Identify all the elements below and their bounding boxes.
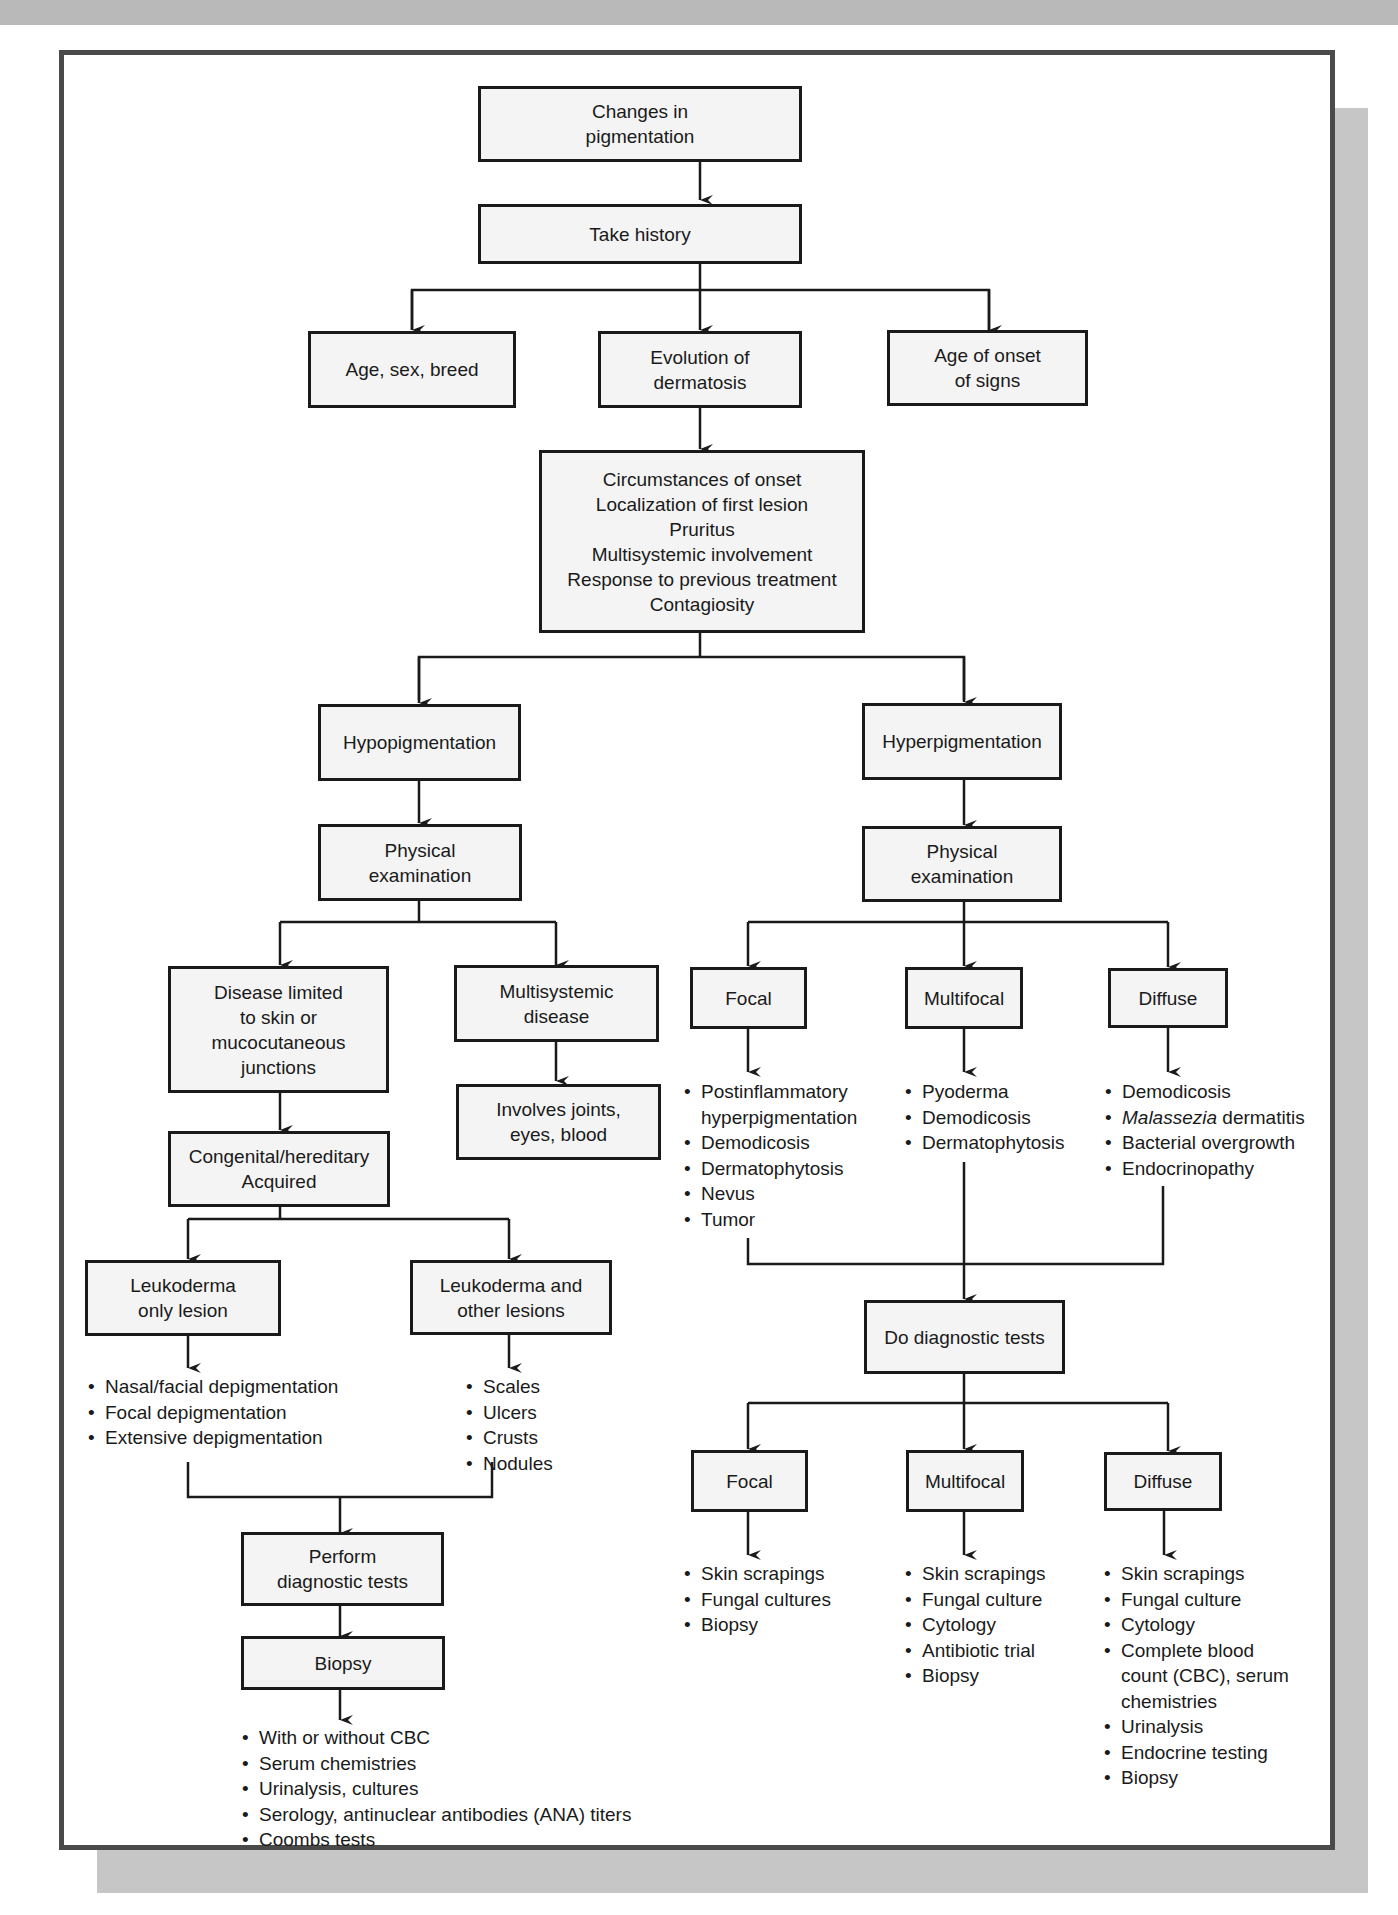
node-label: Focal: [726, 1469, 772, 1494]
list-item: Crusts: [466, 1425, 553, 1451]
list-item: Biopsy: [905, 1663, 1046, 1689]
list-item: Complete blood count (CBC), serum chemis…: [1104, 1638, 1289, 1715]
list-test-diffuse: Skin scrapings Fungal culture Cytology C…: [1104, 1561, 1289, 1791]
node-label: Congenital/hereditary Acquired: [189, 1144, 370, 1194]
list-biopsy: With or without CBC Serum chemistries Ur…: [242, 1725, 631, 1853]
node-label: Evolution of dermatosis: [650, 345, 749, 395]
list-item: Skin scrapings: [905, 1561, 1046, 1587]
node-biopsy: Biopsy: [241, 1636, 445, 1690]
node-label: Hypopigmentation: [343, 730, 496, 755]
list-hyper-focal: Postinflammatory hyperpigmentation Demod…: [684, 1079, 857, 1232]
node-congenital-acquired: Congenital/hereditary Acquired: [168, 1131, 390, 1207]
list-item: Demodicosis: [684, 1130, 857, 1156]
node-label: Disease limited to skin or mucocutaneous…: [211, 980, 345, 1080]
node-label: Hyperpigmentation: [882, 729, 1041, 754]
list-item: Fungal culture: [1104, 1587, 1289, 1613]
node-label: Leukoderma only lesion: [130, 1273, 236, 1323]
node-history-details: Circumstances of onset Localization of f…: [539, 450, 865, 633]
list-item: Tumor: [684, 1207, 857, 1233]
list-item: Urinalysis, cultures: [242, 1776, 631, 1802]
list-item: Nevus: [684, 1181, 857, 1207]
list-item: Focal depigmentation: [88, 1400, 338, 1426]
list-item: Cytology: [905, 1612, 1046, 1638]
list-hyper-diffuse: Demodicosis Malassezia dermatitis Bacter…: [1105, 1079, 1305, 1181]
list-item: Nasal/facial depigmentation: [88, 1374, 338, 1400]
node-label: Diffuse: [1134, 1469, 1193, 1494]
list-item: Bacterial overgrowth: [1105, 1130, 1305, 1156]
list-item: Skin scrapings: [684, 1561, 831, 1587]
node-evolution-of-dermatosis: Evolution of dermatosis: [598, 331, 802, 408]
list-item: Endocrinopathy: [1105, 1156, 1305, 1182]
node-age-sex-breed: Age, sex, breed: [308, 331, 516, 408]
node-take-history: Take history: [478, 204, 802, 264]
list-item: Demodicosis: [905, 1105, 1065, 1131]
node-label: Age of onset of signs: [934, 343, 1041, 393]
node-label: Changes in pigmentation: [586, 99, 695, 149]
node-label: Biopsy: [314, 1651, 371, 1676]
list-item: Malassezia dermatitis: [1105, 1105, 1305, 1131]
node-label: Multisystemic disease: [499, 979, 613, 1029]
list-item: Antibiotic trial: [905, 1638, 1046, 1664]
node-hypopigmentation: Hypopigmentation: [318, 704, 521, 781]
list-leukoderma-only: Nasal/facial depigmentation Focal depigm…: [88, 1374, 338, 1451]
node-do-diagnostic-tests: Do diagnostic tests: [864, 1300, 1065, 1374]
node-involves-joints-eyes-blood: Involves joints, eyes, blood: [456, 1084, 661, 1160]
node-test-multifocal: Multifocal: [906, 1450, 1024, 1512]
node-leukoderma-and-other-lesions: Leukoderma and other lesions: [410, 1260, 612, 1335]
list-item-text: dermatitis: [1217, 1107, 1305, 1128]
node-label: Take history: [589, 222, 690, 247]
list-item: Serology, antinuclear antibodies (ANA) t…: [242, 1802, 631, 1828]
list-item: Fungal culture: [905, 1587, 1046, 1613]
list-test-focal: Skin scrapings Fungal cultures Biopsy: [684, 1561, 831, 1638]
node-label: Physical examination: [911, 839, 1013, 889]
node-leukoderma-only-lesion: Leukoderma only lesion: [85, 1260, 281, 1336]
node-test-focal: Focal: [691, 1450, 808, 1512]
list-item: Scales: [466, 1374, 553, 1400]
italic-genus-name: Malassezia: [1122, 1107, 1217, 1128]
list-item: Ulcers: [466, 1400, 553, 1426]
list-item: With or without CBC: [242, 1725, 631, 1751]
list-item: Dermatophytosis: [905, 1130, 1065, 1156]
node-label: Diffuse: [1139, 986, 1198, 1011]
node-label: Age, sex, breed: [345, 357, 478, 382]
list-item: Extensive depigmentation: [88, 1425, 338, 1451]
node-label: Leukoderma and other lesions: [440, 1273, 583, 1323]
list-item: Cytology: [1104, 1612, 1289, 1638]
node-hyper-focal: Focal: [690, 967, 807, 1029]
node-label: Do diagnostic tests: [884, 1325, 1045, 1350]
node-label: Circumstances of onset Localization of f…: [567, 467, 836, 617]
node-label: Physical examination: [369, 838, 471, 888]
list-item: Dermatophytosis: [684, 1156, 857, 1182]
node-perform-diagnostic-tests: Perform diagnostic tests: [241, 1532, 444, 1606]
list-item: Nodules: [466, 1451, 553, 1477]
node-label: Multifocal: [924, 986, 1004, 1011]
node-hyper-diffuse: Diffuse: [1108, 968, 1228, 1028]
node-test-diffuse: Diffuse: [1104, 1452, 1222, 1511]
node-hypo-physical-examination: Physical examination: [318, 824, 522, 901]
node-multisystemic-disease: Multisystemic disease: [454, 965, 659, 1042]
node-label: Involves joints, eyes, blood: [496, 1097, 621, 1147]
list-test-multifocal: Skin scrapings Fungal culture Cytology A…: [905, 1561, 1046, 1689]
list-item: Fungal cultures: [684, 1587, 831, 1613]
node-age-of-onset: Age of onset of signs: [887, 330, 1088, 406]
node-changes-in-pigmentation: Changes in pigmentation: [478, 86, 802, 162]
node-hyper-physical-examination: Physical examination: [862, 826, 1062, 902]
node-hyper-multifocal: Multifocal: [905, 967, 1023, 1029]
node-disease-limited-to-skin: Disease limited to skin or mucocutaneous…: [168, 966, 389, 1093]
list-item: Urinalysis: [1104, 1714, 1289, 1740]
list-leukoderma-other: Scales Ulcers Crusts Nodules: [466, 1374, 553, 1476]
list-item: Endocrine testing: [1104, 1740, 1289, 1766]
list-item: Biopsy: [1104, 1765, 1289, 1791]
list-item: Postinflammatory hyperpigmentation: [684, 1079, 857, 1130]
list-item: Skin scrapings: [1104, 1561, 1289, 1587]
list-item: Pyoderma: [905, 1079, 1065, 1105]
list-item: Serum chemistries: [242, 1751, 631, 1777]
list-hyper-multifocal: Pyoderma Demodicosis Dermatophytosis: [905, 1079, 1065, 1156]
node-label: Multifocal: [925, 1469, 1005, 1494]
node-hyperpigmentation: Hyperpigmentation: [862, 703, 1062, 780]
node-label: Focal: [725, 986, 771, 1011]
node-label: Perform diagnostic tests: [277, 1544, 408, 1594]
list-item: Coombs tests: [242, 1827, 631, 1853]
list-item: Demodicosis: [1105, 1079, 1305, 1105]
list-item: Biopsy: [684, 1612, 831, 1638]
